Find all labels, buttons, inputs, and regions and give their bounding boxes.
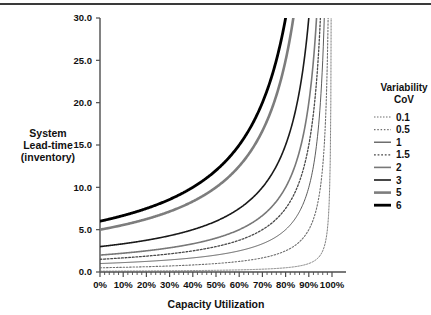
x-axis-tick-label: 10% [114, 279, 134, 290]
legend-label-cov-6: 6 [396, 200, 402, 211]
line-chart: System Lead-time (inventory) Capacity Ut… [0, 0, 431, 315]
x-axis-tick-label: 70% [253, 279, 273, 290]
x-axis-tick-label: 30% [160, 279, 180, 290]
legend-item-cov-5[interactable]: 5 [374, 187, 402, 198]
legend-item-cov-1.5[interactable]: 1.5 [374, 149, 410, 160]
legend-label-cov-5: 5 [396, 187, 402, 198]
legend-label-cov-1.5: 1.5 [396, 149, 410, 160]
y-axis-title-line-2: Lead-time [23, 139, 73, 151]
y-axis-title: System Lead-time (inventory) [21, 127, 75, 163]
legend-title-line-1: Variability [380, 82, 428, 93]
y-axis-tick-label: 5.0 [79, 224, 92, 235]
legend-title-line-2: CoV [394, 94, 414, 105]
y-axis-tick-label: 0.0 [79, 266, 92, 277]
legend-item-cov-0.5[interactable]: 0.5 [374, 124, 410, 135]
x-axis-tick-label: 50% [206, 279, 226, 290]
x-axis-tick-label: 80% [276, 279, 296, 290]
legend-item-cov-1[interactable]: 1 [374, 137, 402, 148]
y-axis-tick-label: 15.0 [74, 139, 93, 150]
y-axis-tick-label: 25.0 [74, 55, 93, 66]
y-axis-tick-label: 20.0 [74, 97, 93, 108]
x-axis-tick-label: 0% [93, 279, 107, 290]
legend-items: 0.10.511.52356 [374, 112, 410, 211]
legend-label-cov-0.5: 0.5 [396, 124, 410, 135]
legend-item-cov-2[interactable]: 2 [374, 162, 402, 173]
legend-item-cov-6[interactable]: 6 [374, 200, 402, 211]
legend-label-cov-2: 2 [396, 162, 402, 173]
y-axis-tick-label: 30.0 [74, 12, 93, 23]
chart-figure: System Lead-time (inventory) Capacity Ut… [0, 0, 431, 315]
x-axis-tick-label: 60% [230, 279, 250, 290]
x-axis-tick-label: 100% [320, 279, 345, 290]
legend-item-cov-0.1[interactable]: 0.1 [374, 112, 410, 123]
x-axis-tick-label: 40% [183, 279, 203, 290]
x-axis-tick-label: 20% [137, 279, 157, 290]
legend-label-cov-3: 3 [396, 175, 402, 186]
top-divider-rule [0, 3, 431, 5]
chart-legend: Variability CoV 0.10.511.52356 [374, 82, 428, 211]
legend-label-cov-1: 1 [396, 137, 402, 148]
y-axis-tick-label: 10.0 [74, 182, 93, 193]
legend-label-cov-0.1: 0.1 [396, 112, 410, 123]
x-axis-tick-label: 90% [299, 279, 319, 290]
y-axis-title-line-3: (inventory) [21, 151, 75, 163]
legend-item-cov-3[interactable]: 3 [374, 175, 402, 186]
x-axis-title: Capacity Utilization [168, 298, 265, 310]
y-axis-title-line-1: System [29, 127, 66, 139]
plot-area-background [100, 18, 332, 272]
